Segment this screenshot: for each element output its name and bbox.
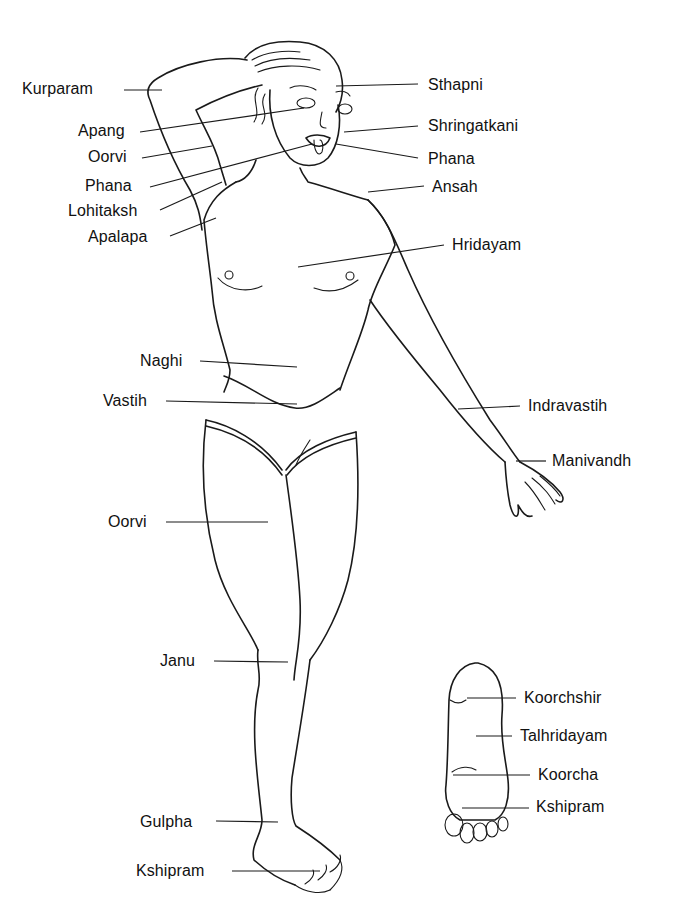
label-ansah: Ansah [432,178,478,196]
label-kshipram-sole: Kshipram [536,798,604,816]
label-phana-right: Phana [428,150,475,168]
marma-points-diagram: Kurparam Apang Oorvi Phana Lohitaksh Apa… [0,0,678,911]
label-apang: Apang [78,122,125,140]
label-talhridayam: Talhridayam [520,727,607,745]
label-kurparam: Kurparam [22,80,93,98]
label-indravastih: Indravastih [528,397,607,415]
label-gulpha: Gulpha [140,813,192,831]
label-oorvi-upper: Oorvi [88,148,127,166]
label-sthapni: Sthapni [428,76,483,94]
label-vastih: Vastih [103,392,147,410]
label-shringatkani: Shringatkani [428,117,518,135]
label-koorchshir: Koorchshir [524,689,601,707]
label-naghi: Naghi [140,352,182,370]
label-janu: Janu [160,652,195,670]
label-koorcha: Koorcha [538,766,598,784]
label-lohitaksh: Lohitaksh [68,202,137,220]
label-apalapa: Apalapa [88,228,147,246]
label-phana-left: Phana [85,177,132,195]
label-manivandh: Manivandh [552,452,631,470]
label-oorvi-thigh: Oorvi [108,513,147,531]
label-hridayam: Hridayam [452,236,521,254]
label-kshipram-foot: Kshipram [136,862,204,880]
